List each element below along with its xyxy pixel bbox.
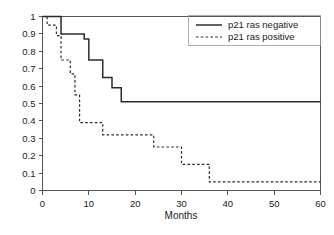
y-axis-ticks: 00.10.20.30.40.50.60.70.80.91 <box>22 11 42 196</box>
kaplan-meier-chart: 00.10.20.30.40.50.60.70.80.91 0102030405… <box>0 0 334 235</box>
y-tick-label: 0.3 <box>22 133 35 144</box>
x-tick-label: 20 <box>130 198 141 209</box>
x-axis-ticks: 0102030405060 <box>40 191 326 209</box>
x-tick-label: 50 <box>269 198 280 209</box>
y-tick-label: 0.8 <box>22 46 35 57</box>
x-axis-title: Months <box>165 210 198 221</box>
y-tick-label: 0 <box>30 185 35 196</box>
chart-canvas: 00.10.20.30.40.50.60.70.80.91 0102030405… <box>0 0 334 235</box>
y-tick-label: 0.6 <box>22 81 35 92</box>
x-tick-label: 0 <box>40 198 45 209</box>
y-tick-label: 0.1 <box>22 168 35 179</box>
y-tick-label: 0.2 <box>22 150 35 161</box>
y-tick-label: 0.4 <box>22 115 35 126</box>
y-tick-label: 0.9 <box>22 28 35 39</box>
y-tick-label: 0.5 <box>22 98 35 109</box>
x-tick-label: 30 <box>176 198 187 209</box>
x-tick-label: 40 <box>223 198 234 209</box>
legend: p21 ras negative p21 ras positive <box>189 16 321 46</box>
y-tick-label: 1 <box>30 11 35 22</box>
legend-label-0: p21 ras negative <box>228 19 298 30</box>
plot-frame <box>43 17 321 191</box>
x-tick-label: 10 <box>84 198 95 209</box>
x-tick-label: 60 <box>315 198 326 209</box>
y-tick-label: 0.7 <box>22 63 35 74</box>
legend-label-1: p21 ras positive <box>228 31 295 42</box>
